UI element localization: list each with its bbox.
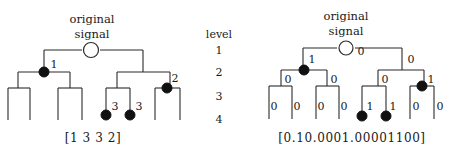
left-root-node [84,43,99,58]
level-column-group: level 1 2 3 4 [206,28,233,126]
left-node-level3-rr [162,83,172,93]
right-node-level2-left [299,65,309,75]
left-result-string: [1 3 3 2] [65,131,122,145]
left-label-level2-left: 1 [51,58,58,71]
level-value-2: 2 [216,66,223,79]
left-node-level4-leaf5 [101,110,111,120]
right-label-level4-3: 0 [318,100,325,113]
right-label-level4-1: 0 [271,100,278,113]
right-label-level4-6: 1 [390,100,397,113]
right-label-level4-7: 0 [413,100,420,113]
right-root-node [339,41,353,55]
left-header-line1: original [69,12,114,26]
left-node-level2-left [39,67,49,77]
right-label-level3-1: 0 [285,73,292,86]
left-node-level4-leaf6 [125,110,135,120]
level-column-header: level [206,28,233,41]
right-label-level4-5: 1 [367,100,374,113]
left-tree-group: original signal 1 [8,12,180,145]
level-value-1: 1 [216,44,223,57]
left-header-line2: signal [75,27,110,41]
left-label-level4-leaf6: 3 [136,100,143,113]
right-label-level4-2: 0 [294,100,301,113]
right-label-level2-left: 1 [309,53,316,66]
right-tree-group: original signal 0 1 0 0 0 [269,9,444,145]
right-result-string: [0.10.0001.00001100] [278,131,425,145]
wavelet-tree-figure: original signal 1 [0,0,453,158]
right-label-level2-right: 0 [408,53,415,66]
right-header-line1: original [323,9,368,23]
right-label-level4-8: 0 [437,100,444,113]
level-value-3: 3 [216,90,223,103]
right-node-level4-leaf6 [381,111,391,121]
right-node-level4-leaf5 [357,111,367,121]
right-label-level3-2: 0 [331,73,338,86]
right-label-level3-3: 0 [382,73,389,86]
right-node-level3-rr [417,81,427,91]
right-root-label: 0 [358,45,365,58]
left-label-level3-rr: 2 [172,72,179,85]
left-label-level4-leaf5: 3 [112,100,119,113]
figure-canvas: original signal 1 [0,0,453,158]
level-value-4: 4 [216,113,223,126]
right-label-level3-4: 1 [428,73,435,86]
right-label-level4-4: 0 [341,100,348,113]
right-header-line2: signal [329,24,364,38]
